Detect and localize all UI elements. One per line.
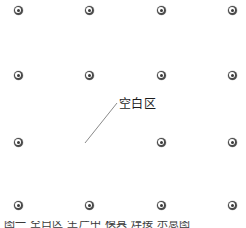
grid-marker	[228, 6, 237, 15]
grid-marker	[14, 138, 23, 147]
callout-leader-line	[85, 103, 117, 143]
callout-label: 空白区	[119, 97, 156, 111]
grid-marker	[85, 6, 94, 15]
grid-marker	[228, 71, 237, 80]
grid-marker	[85, 71, 94, 80]
figure-caption-clip: 图一 空白区 生产中 模具 焊接 示意图	[0, 221, 246, 228]
grid-marker	[85, 201, 94, 210]
grid-marker	[14, 201, 23, 210]
grid-marker	[228, 138, 237, 147]
figure-caption: 图一 空白区 生产中 模具 焊接 示意图	[4, 221, 190, 228]
figure-canvas: 空白区 图一 空白区 生产中 模具 焊接 示意图	[0, 0, 246, 228]
grid-marker	[157, 71, 166, 80]
callout-leader-line-svg	[0, 0, 246, 228]
grid-marker	[14, 71, 23, 80]
grid-marker	[157, 138, 166, 147]
grid-marker	[157, 201, 166, 210]
grid-marker	[14, 6, 23, 15]
grid-marker	[228, 201, 237, 210]
grid-marker	[157, 6, 166, 15]
